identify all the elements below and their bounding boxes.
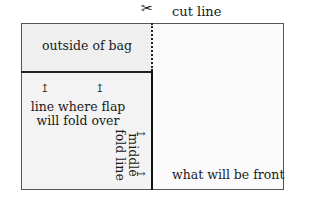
front-label: what will be front [172, 167, 284, 182]
arrow-up-icon: ↥ [40, 83, 49, 94]
middle-fold-label-line2: fold line [114, 129, 127, 181]
flap-fold-line [21, 71, 153, 73]
flap-fold-label: line where flap will fold over [22, 100, 134, 128]
cut-line-label: cut line [172, 4, 221, 19]
middle-fold-line [151, 71, 153, 190]
middle-fold-label-line1: middle [127, 129, 140, 181]
scissors-icon: ✂ [141, 1, 153, 15]
middle-fold-label: middle fold line [104, 130, 150, 180]
outside-of-bag-label: outside of bag [22, 38, 152, 53]
arrow-up-icon: ↥ [95, 83, 104, 94]
